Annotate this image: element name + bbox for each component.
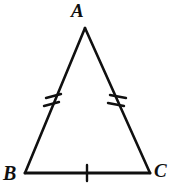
vertex-label-c: C	[154, 161, 167, 180]
triangle-drawing	[0, 0, 176, 191]
tick-ac-2	[108, 103, 124, 106]
vertex-label-b: B	[3, 163, 16, 183]
tick-marks-side-ab	[44, 94, 61, 106]
tick-ab-1	[46, 94, 61, 98]
side-ab-line	[25, 28, 85, 173]
side-ac-line	[85, 28, 150, 173]
tick-ab-2	[44, 102, 59, 106]
geometry-figure: A B C	[0, 0, 176, 191]
vertex-label-a: A	[71, 1, 84, 20]
triangle-outline	[25, 28, 150, 173]
tick-ac-1	[110, 95, 126, 98]
